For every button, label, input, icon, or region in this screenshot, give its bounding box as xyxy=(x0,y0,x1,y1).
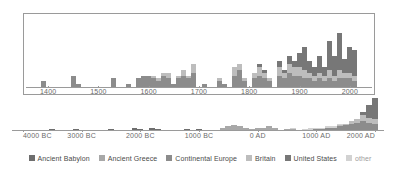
x-tick-label: 2000 xyxy=(342,88,358,95)
x-tick-mark xyxy=(82,130,83,132)
x-tick-mark xyxy=(48,86,49,88)
legend-swatch-icon xyxy=(246,155,252,161)
x-tick-label: 2000 AD xyxy=(347,132,375,139)
legend-swatch-icon xyxy=(285,155,291,161)
full-range-axis-line xyxy=(12,130,384,131)
legend-swatch-icon xyxy=(166,155,172,161)
legend-label: other xyxy=(355,155,371,162)
x-tick-label: 1400 xyxy=(40,88,56,95)
bar xyxy=(267,78,272,87)
x-tick-label: 1000 AD xyxy=(302,132,330,139)
x-tick-mark xyxy=(98,86,99,88)
legend-label: Ancient Greece xyxy=(108,155,158,162)
bar xyxy=(111,78,116,87)
x-tick-mark xyxy=(149,86,150,88)
legend-label: Ancient Babylon xyxy=(38,155,90,162)
legend-item-other[interactable]: other xyxy=(346,155,371,162)
bar xyxy=(191,64,196,87)
bar xyxy=(352,50,357,87)
bar-segment-united-states xyxy=(352,50,357,76)
x-tick-label: 2000 BC xyxy=(126,132,155,139)
legend-item-united-states[interactable]: United States xyxy=(285,155,337,162)
inset-panel-plot-area xyxy=(23,13,375,87)
x-tick-mark xyxy=(140,130,141,132)
x-tick-label: 0 AD xyxy=(250,132,266,139)
x-tick-label: 1600 xyxy=(141,88,157,95)
x-tick-label: 1000 BC xyxy=(185,132,214,139)
x-tick-label: 1900 xyxy=(291,88,307,95)
legend-label: Britain xyxy=(255,155,276,162)
x-tick-mark xyxy=(350,86,351,88)
legend-item-ancient-greece[interactable]: Ancient Greece xyxy=(99,155,158,162)
x-tick-label: 1800 xyxy=(241,88,257,95)
legend-swatch-icon xyxy=(346,155,352,161)
full-range-plot-area xyxy=(23,98,375,130)
x-tick-label: 1500 xyxy=(90,88,106,95)
chart-root: 1400150016001700180019002000 4000 BC3000… xyxy=(0,0,400,172)
bar-segment-britain xyxy=(191,64,196,73)
x-tick-mark xyxy=(300,86,301,88)
x-tick-mark xyxy=(375,130,376,132)
legend-label: Continental Europe xyxy=(175,155,237,162)
full-range-x-axis-ticks: 4000 BC3000 BC2000 BC1000 BC0 AD1000 AD2… xyxy=(12,132,384,144)
x-tick-mark xyxy=(249,86,250,88)
x-tick-mark xyxy=(258,130,259,132)
legend-swatch-icon xyxy=(29,155,35,161)
x-tick-label: 3000 BC xyxy=(67,132,96,139)
x-tick-mark xyxy=(199,86,200,88)
bar-segment-united-states xyxy=(372,98,378,119)
legend-label: United States xyxy=(294,155,337,162)
legend-item-britain[interactable]: Britain xyxy=(246,155,276,162)
chart-legend: Ancient BabylonAncient GreeceContinental… xyxy=(0,151,400,165)
x-tick-mark xyxy=(199,130,200,132)
legend-item-continental-europe[interactable]: Continental Europe xyxy=(166,155,237,162)
legend-swatch-icon xyxy=(99,155,105,161)
x-tick-label: 4000 BC xyxy=(23,132,52,139)
x-tick-mark xyxy=(23,130,24,132)
bar xyxy=(372,98,378,130)
bar-segment-continental-europe xyxy=(191,73,196,87)
x-tick-mark xyxy=(316,130,317,132)
legend-item-ancient-babylon[interactable]: Ancient Babylon xyxy=(29,155,90,162)
bar-segment-continental-europe xyxy=(111,78,116,87)
x-tick-label: 1700 xyxy=(191,88,207,95)
bar xyxy=(242,78,247,87)
